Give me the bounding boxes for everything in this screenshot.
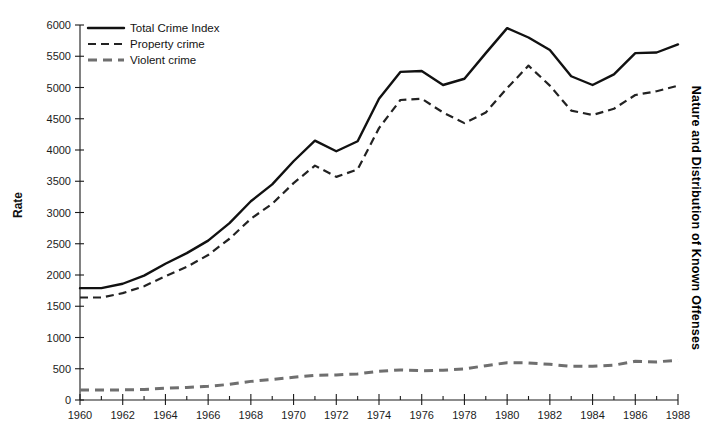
x-tick-label-1960: 1960 [68,409,92,421]
x-tick-label-1976: 1976 [409,409,433,421]
y-tick-label-2000: 2000 [47,269,71,281]
x-tick-label-1962: 1962 [110,409,134,421]
y-axis-title: Rate [11,192,25,218]
x-tick-label-1970: 1970 [281,409,305,421]
y-tick-label-5000: 5000 [47,82,71,94]
y-tick-label-0: 0 [65,394,71,406]
series-line-violent-crime [80,360,678,390]
legend-label-0: Total Crime Index [130,22,220,34]
y-tick-label-3000: 3000 [47,207,71,219]
x-tick-label-1974: 1974 [367,409,391,421]
x-tick-label-1980: 1980 [495,409,519,421]
legend-label-1: Property crime [130,38,205,50]
x-tick-label-1984: 1984 [580,409,604,421]
crime-rate-line-chart: 0500100015002000250030003500400045005000… [0,0,715,436]
x-tick-label-1988: 1988 [666,409,690,421]
chart-figure: 0500100015002000250030003500400045005000… [0,0,715,436]
x-tick-label-1982: 1982 [538,409,562,421]
x-tick-label-1968: 1968 [239,409,263,421]
x-tick-label-1978: 1978 [452,409,476,421]
y-tick-label-1000: 1000 [47,332,71,344]
y-tick-label-5500: 5500 [47,50,71,62]
y-tick-label-3500: 3500 [47,175,71,187]
y-tick-label-2500: 2500 [47,238,71,250]
series-line-total-crime-index [80,28,678,288]
y-tick-label-1500: 1500 [47,300,71,312]
side-running-title: Nature and Distribution of Known Offense… [689,86,703,350]
x-tick-label-1966: 1966 [196,409,220,421]
y-tick-label-4000: 4000 [47,144,71,156]
y-tick-label-4500: 4500 [47,113,71,125]
y-tick-label-500: 500 [53,363,71,375]
x-tick-label-1986: 1986 [623,409,647,421]
x-tick-label-1964: 1964 [153,409,177,421]
legend-label-2: Violent crime [130,54,196,66]
y-tick-label-6000: 6000 [47,19,71,31]
x-tick-label-1972: 1972 [324,409,348,421]
